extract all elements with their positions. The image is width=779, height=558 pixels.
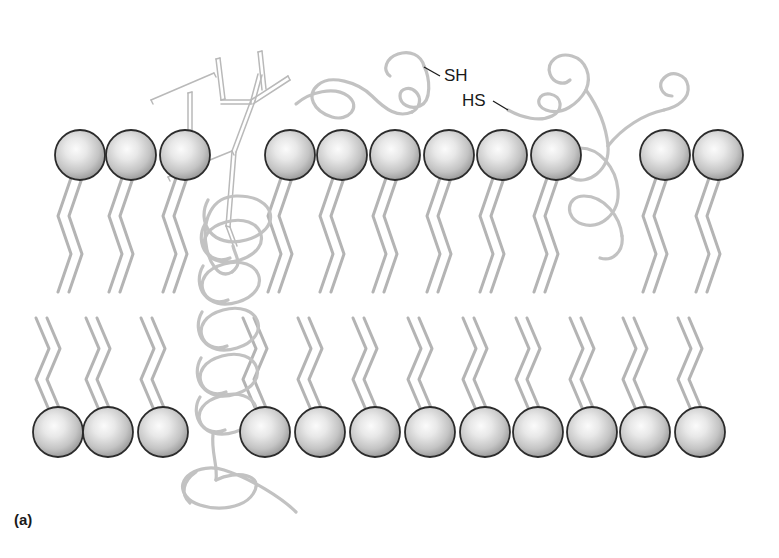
lipid-tail <box>69 178 82 292</box>
lipid-tail <box>689 318 702 410</box>
lipid-headgroup <box>350 407 400 457</box>
thiol-label-hs-right: HS <box>462 91 486 110</box>
lipid-headgroup <box>620 407 670 457</box>
lipid-tail <box>152 318 165 410</box>
peripheral-protein-with-thiol <box>296 53 429 118</box>
lipid-headgroup <box>405 407 455 457</box>
membrane-diagram: SHHS <box>0 0 779 558</box>
lipid-tail <box>408 318 421 410</box>
thiol-label-sh-left: SH <box>444 66 468 85</box>
lipid-tail <box>120 178 133 292</box>
lipid-tail <box>643 178 656 292</box>
lipid-headgroup <box>640 130 690 180</box>
lipid-headgroup <box>424 130 474 180</box>
lipid-headgroup <box>83 407 133 457</box>
lipid-tail <box>570 318 583 410</box>
lipid-tail <box>279 178 292 292</box>
lipid-headgroup <box>160 130 210 180</box>
lipid-headgroup <box>295 407 345 457</box>
lipid-headgroup <box>693 130 743 180</box>
lipid-tail <box>163 178 176 292</box>
lipid-tail <box>298 318 311 410</box>
lipid-tail <box>58 178 71 292</box>
lipid-headgroup <box>240 407 290 457</box>
lipid-tail <box>491 178 504 292</box>
lipid-tail <box>516 318 529 410</box>
lipid-tail <box>545 178 558 292</box>
lipid-tail <box>707 178 720 292</box>
lipid-headgroup <box>513 407 563 457</box>
lipid-headgroup <box>55 130 105 180</box>
lipid-tail <box>654 178 667 292</box>
lipid-tail <box>384 178 397 292</box>
lipid-tails-layer <box>36 178 720 410</box>
lipid-tail <box>109 178 122 292</box>
lipid-tail <box>320 178 333 292</box>
transmembrane-coil <box>183 196 296 512</box>
lipid-tail <box>427 178 440 292</box>
lipid-tail <box>268 178 281 292</box>
lipid-tail <box>331 178 344 292</box>
lipid-headgroup <box>265 130 315 180</box>
lipid-tail <box>36 318 49 410</box>
lipid-tail <box>480 178 493 292</box>
figure-panel-label: (a) <box>14 511 32 528</box>
lipid-headgroup <box>460 407 510 457</box>
lipid-headgroup <box>33 407 83 457</box>
label-leader-line <box>493 101 508 110</box>
lipid-headgroups-layer <box>33 130 743 457</box>
lipid-headgroup <box>477 130 527 180</box>
lipid-headgroup <box>531 130 581 180</box>
lipid-tail <box>581 318 594 410</box>
lipid-tail <box>474 318 487 410</box>
lipid-tail <box>678 318 691 410</box>
lipid-headgroup <box>106 130 156 180</box>
lipid-tail <box>364 318 377 410</box>
lipid-tail <box>309 318 322 410</box>
lipid-tail <box>438 178 451 292</box>
lipid-headgroup <box>675 407 725 457</box>
lipid-headgroup <box>317 130 367 180</box>
lipid-tail <box>353 318 366 410</box>
lipid-tail <box>634 318 647 410</box>
lipid-tail <box>174 178 187 292</box>
lipid-headgroup <box>370 130 420 180</box>
lipid-tail <box>696 178 709 292</box>
lipid-tail <box>534 178 547 292</box>
lipid-tail <box>623 318 636 410</box>
lipid-tail <box>97 318 110 410</box>
lipid-headgroup <box>138 407 188 457</box>
lipid-tail <box>527 318 540 410</box>
lipid-tail <box>47 318 60 410</box>
lipid-tail <box>141 318 154 410</box>
lipid-tail <box>373 178 386 292</box>
figure-root: SHHS (a) <box>0 0 779 558</box>
lipid-tail <box>463 318 476 410</box>
lipid-tail <box>86 318 99 410</box>
lipid-headgroup <box>567 407 617 457</box>
lipid-tail <box>419 318 432 410</box>
chemical-labels-layer: SHHS <box>424 66 508 110</box>
